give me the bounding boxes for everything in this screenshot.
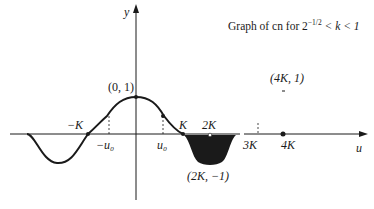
- cn-curve: [27, 97, 183, 163]
- neg-u0-label: −u₀: [96, 139, 114, 151]
- title-prefix: Graph of cn for 2: [228, 20, 308, 32]
- K-label: K: [179, 119, 187, 131]
- x-axis-label: u: [356, 142, 362, 154]
- peak-label: (0, 1): [108, 81, 134, 93]
- title-suffix: < k < 1: [322, 20, 360, 32]
- 2K-point: [208, 133, 212, 137]
- x-axis-arrow-icon: [359, 131, 368, 137]
- 4K-point-label: (4K, 1): [270, 72, 304, 84]
- u0-point: [161, 114, 165, 118]
- neg-K-point: [86, 132, 90, 136]
- 2K-label: 2K: [202, 119, 216, 131]
- y-axis-label: y: [124, 6, 129, 18]
- neg-K-label: −K: [67, 119, 83, 131]
- y-axis-arrow-icon: [133, 4, 139, 13]
- trough-label: (2K, −1): [187, 170, 229, 182]
- title-exponent: −1/2: [308, 18, 322, 27]
- graph-title: Graph of cn for 2−1/2 < k < 1: [228, 18, 360, 32]
- 4K-label: 4K: [281, 139, 295, 151]
- trough-region: [184, 135, 236, 165]
- 3K-label: 3K: [243, 139, 257, 151]
- u0-label: u₀: [157, 139, 167, 151]
- peak-point: [134, 95, 138, 99]
- 4K-point: [281, 132, 286, 137]
- K-point: [181, 132, 185, 136]
